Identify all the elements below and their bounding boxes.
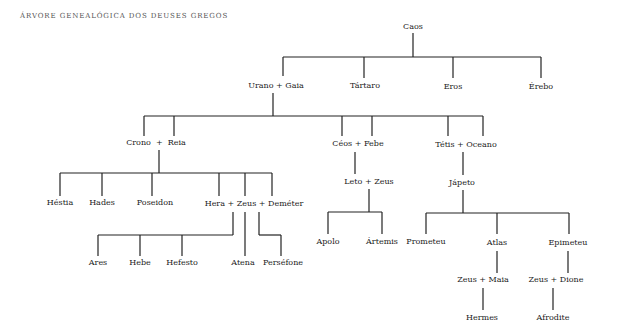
node-caos: Caos bbox=[403, 22, 423, 32]
node-persefone: Perséfone bbox=[263, 258, 303, 268]
node-poseidon: Poseidon bbox=[137, 198, 173, 208]
node-prometeu: Prometeu bbox=[406, 237, 445, 247]
node-hestia: Héstia bbox=[47, 198, 73, 208]
node-tetis-oceano: Tétis + Oceano bbox=[435, 140, 497, 150]
tree-connectors bbox=[0, 0, 617, 335]
node-ares: Ares bbox=[89, 258, 107, 268]
node-hermes: Hermes bbox=[466, 313, 498, 323]
node-afrodite: Afrodite bbox=[537, 313, 570, 323]
node-hebe: Hebe bbox=[129, 258, 151, 268]
node-hades: Hades bbox=[89, 198, 115, 208]
node-atlas: Atlas bbox=[487, 238, 507, 248]
node-atena: Atena bbox=[231, 258, 255, 268]
node-zeus-maia: Zeus + Maia bbox=[457, 275, 509, 285]
node-hera-zeus-demeter: Hera + Zeus + Deméter bbox=[205, 199, 304, 209]
node-artemis: Ártemis bbox=[366, 237, 398, 247]
node-zeus-dione: Zeus + Dione bbox=[528, 275, 583, 285]
node-urano-gaia: Urano + Gaia bbox=[248, 81, 304, 91]
node-hefesto: Hefesto bbox=[166, 258, 198, 268]
node-eros: Eros bbox=[444, 82, 463, 92]
node-ceos-febe: Céos + Febe bbox=[332, 139, 383, 149]
node-tartaro: Tártaro bbox=[350, 81, 380, 91]
node-apolo: Apolo bbox=[316, 237, 339, 247]
node-epimeteu: Epimeteu bbox=[549, 238, 588, 248]
node-crono-reia: Crono + Reia bbox=[126, 138, 186, 148]
node-erebo: Érebo bbox=[529, 82, 553, 92]
node-leto-zeus: Leto + Zeus bbox=[344, 177, 393, 187]
node-japeto: Jápeto bbox=[449, 178, 475, 188]
